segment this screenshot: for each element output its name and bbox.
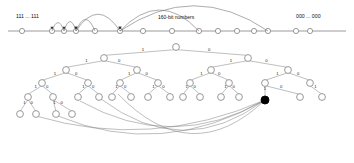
tree-node[interactable] — [25, 94, 32, 101]
number-line-node[interactable] — [169, 28, 174, 33]
tree-edge — [265, 86, 300, 95]
tree-node[interactable] — [218, 94, 225, 101]
tree-edge-label: 0 — [31, 100, 34, 105]
tree-node[interactable] — [236, 94, 243, 101]
tree-edge-label: 0 — [61, 100, 64, 105]
tree-node[interactable] — [307, 80, 314, 87]
tree-edge-label: 1 — [142, 47, 145, 52]
tree-edge-label: 0 — [118, 58, 121, 63]
tree-edge-label: 1 — [128, 71, 131, 76]
number-line-group: 111 ... 111 160-bit numbers 000 ... 000 — [8, 6, 346, 34]
tree-node[interactable] — [117, 80, 124, 87]
tree-node[interactable] — [50, 94, 57, 101]
long-chord — [101, 99, 265, 130]
tree-node[interactable] — [53, 111, 60, 118]
tree-node[interactable] — [155, 80, 162, 87]
tree-node[interactable] — [173, 44, 180, 51]
tree-edge-label: 0 — [124, 84, 127, 89]
tree-edge — [248, 61, 288, 68]
tree-edge-label: 1 — [276, 71, 279, 76]
number-line-right-label: 000 ... 000 — [296, 13, 321, 19]
number-line-node[interactable] — [140, 28, 145, 33]
tree-node[interactable] — [85, 80, 92, 87]
tree-edge-label: 0 — [75, 71, 78, 76]
tree-edge-label: 1 — [54, 71, 57, 76]
tree-edge-label: 0 — [232, 84, 235, 89]
tree-node[interactable] — [245, 55, 252, 62]
tree-edge-label: 0 — [265, 58, 268, 63]
tree-edge-label: 0 — [218, 71, 221, 76]
tree-node[interactable] — [208, 67, 215, 74]
tree-node[interactable] — [17, 111, 24, 118]
tree-node[interactable] — [63, 67, 70, 74]
tree-edge — [104, 61, 137, 68]
tree-node[interactable] — [262, 80, 269, 87]
number-line-node[interactable] — [251, 28, 256, 33]
tree-edge-label: 0 — [92, 84, 95, 89]
tree-edge-label: 0 — [193, 84, 196, 89]
number-line-node[interactable] — [215, 28, 220, 33]
tree-node[interactable] — [69, 111, 76, 118]
number-line-arc — [76, 14, 120, 31]
number-line-node[interactable] — [234, 28, 239, 33]
tree-node[interactable] — [145, 94, 152, 101]
tree-edge — [104, 50, 176, 56]
tree-edge-label: 1 — [23, 100, 26, 105]
tree-node[interactable] — [134, 67, 141, 74]
tree-edge-label: 1 — [85, 58, 88, 63]
tree-edge-label: 1 — [200, 71, 203, 76]
highlighted-node[interactable] — [261, 96, 269, 104]
tree-node[interactable] — [285, 67, 292, 74]
tree-edge-label: 1 — [314, 84, 317, 89]
binary-tree-group: 101010101010101010101010101011010 — [17, 44, 326, 135]
tree-node[interactable] — [128, 94, 135, 101]
tree-edge-label: 0 — [162, 84, 165, 89]
tree-node[interactable] — [96, 94, 103, 101]
tree-node[interactable] — [33, 111, 40, 118]
tree-node[interactable] — [226, 80, 233, 87]
tree-node[interactable] — [167, 94, 174, 101]
tree-edge-label: 0 — [297, 71, 300, 76]
figure-svg: 111 ... 111 160-bit numbers 000 ... 000 … — [0, 0, 354, 163]
long-chord — [118, 94, 265, 134]
number-line-node[interactable] — [19, 28, 24, 33]
number-line-left-label: 111 ... 111 — [16, 13, 39, 19]
tree-node[interactable] — [319, 94, 326, 101]
number-line-node[interactable] — [293, 28, 298, 33]
figure-container: 111 ... 111 160-bit numbers 000 ... 000 … — [0, 0, 354, 163]
tree-edge-label: 0 — [280, 84, 283, 89]
tree-node[interactable] — [39, 80, 46, 87]
tree-edge-label: 1 — [230, 58, 233, 63]
tree-edge — [176, 50, 248, 56]
tree-node[interactable] — [197, 94, 204, 101]
tree-node[interactable] — [75, 94, 82, 101]
long-chord — [58, 100, 265, 134]
number-line-center-label: 160-bit numbers — [158, 14, 195, 20]
tree-edge-label: 0 — [208, 47, 211, 52]
number-line-arc — [76, 19, 95, 31]
tree-node[interactable] — [109, 94, 116, 101]
tree-edges — [20, 50, 322, 112]
tree-node[interactable] — [101, 55, 108, 62]
tree-node[interactable] — [187, 80, 194, 87]
tree-nodes — [17, 44, 326, 118]
tree-edge-label: 0 — [46, 84, 49, 89]
tree-node[interactable] — [180, 94, 187, 101]
number-line-node[interactable] — [307, 28, 312, 33]
tree-edge-label: 0 — [145, 71, 148, 76]
tree-node[interactable] — [297, 94, 304, 101]
